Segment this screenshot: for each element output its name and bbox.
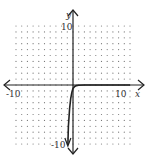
y-axis-label: y <box>65 10 72 20</box>
x-tick-max: 10 <box>115 89 127 99</box>
chart: -1010x10y-10 <box>0 0 148 158</box>
y-tick-min: -10 <box>51 140 66 150</box>
x-tick-min: -10 <box>6 89 21 99</box>
y-tick-max: 10 <box>61 22 73 32</box>
x-axis-label: x <box>135 89 140 99</box>
